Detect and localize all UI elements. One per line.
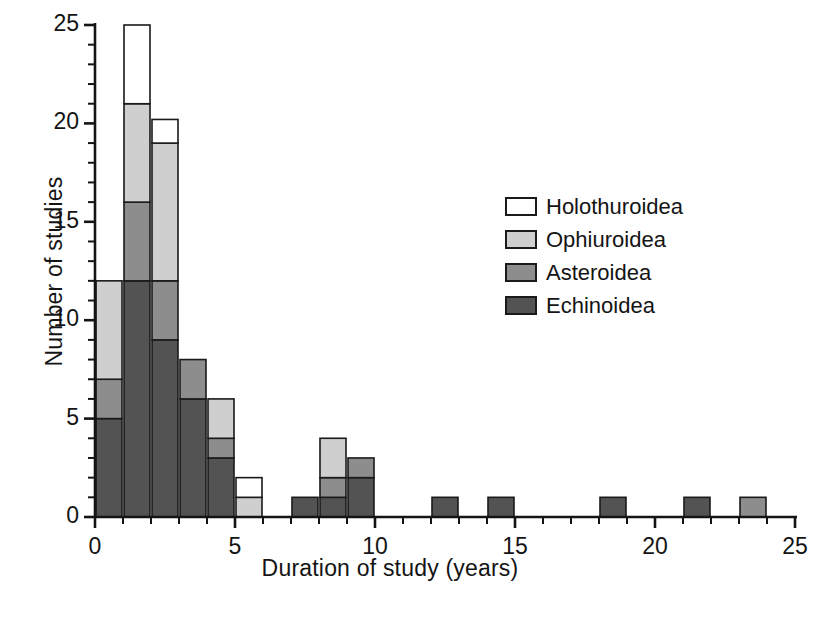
x-tick-label: 0 bbox=[65, 533, 125, 560]
legend-swatch-icon bbox=[505, 230, 537, 249]
legend-label: Ophiuroidea bbox=[546, 229, 666, 251]
bar-segment-echinoidea bbox=[152, 340, 178, 517]
y-axis-title: Number of studies bbox=[41, 122, 68, 422]
bar-segment-holothuroidea bbox=[124, 25, 150, 104]
bar-segment-ophiuroidea bbox=[236, 497, 262, 517]
y-tick-label: 0 bbox=[19, 502, 79, 529]
bar-segment-asteroidea bbox=[348, 458, 374, 478]
bar-segment-ophiuroidea bbox=[208, 399, 234, 438]
bar-segment-asteroidea bbox=[124, 202, 150, 281]
chart-legend: HolothuroideaOphiuroideaAsteroideaEchino… bbox=[505, 190, 805, 322]
legend-item: Holothuroidea bbox=[505, 190, 805, 223]
bar-segment-echinoidea bbox=[208, 458, 234, 517]
y-tick-label: 20 bbox=[19, 108, 79, 135]
bar-segment-asteroidea bbox=[180, 360, 206, 399]
legend-item: Asteroidea bbox=[505, 256, 805, 289]
bar-segment-asteroidea bbox=[96, 379, 122, 418]
legend-label: Holothuroidea bbox=[546, 196, 683, 218]
bar-segment-echinoidea bbox=[488, 497, 514, 517]
bar-segment-asteroidea bbox=[152, 281, 178, 340]
bar-segment-asteroidea bbox=[740, 497, 766, 517]
y-tick-label: 10 bbox=[19, 305, 79, 332]
bar-segment-echinoidea bbox=[600, 497, 626, 517]
x-tick-label: 5 bbox=[205, 533, 265, 560]
legend-item: Echinoidea bbox=[505, 289, 805, 322]
bar-segment-echinoidea bbox=[180, 399, 206, 517]
y-tick-label: 5 bbox=[19, 404, 79, 431]
bar-segment-asteroidea bbox=[208, 438, 234, 458]
bar-segment-ophiuroidea bbox=[124, 104, 150, 202]
legend-label: Asteroidea bbox=[546, 262, 651, 284]
x-tick-label: 25 bbox=[765, 533, 825, 560]
bar-segment-echinoidea bbox=[432, 497, 458, 517]
bar-segment-echinoidea bbox=[348, 478, 374, 517]
bar-segment-ophiuroidea bbox=[96, 281, 122, 379]
bar-segment-echinoidea bbox=[684, 497, 710, 517]
histogram-figure: Number of studies Duration of study (yea… bbox=[0, 0, 831, 625]
legend-swatch-icon bbox=[505, 197, 537, 216]
bar-segment-ophiuroidea bbox=[152, 143, 178, 281]
x-tick-label: 10 bbox=[345, 533, 405, 560]
bar-segment-ophiuroidea bbox=[320, 438, 346, 477]
bar-segment-echinoidea bbox=[124, 281, 150, 517]
legend-swatch-icon bbox=[505, 263, 537, 282]
legend-label: Echinoidea bbox=[546, 295, 655, 317]
bar-segment-echinoidea bbox=[96, 419, 122, 517]
legend-item: Ophiuroidea bbox=[505, 223, 805, 256]
y-tick-label: 25 bbox=[19, 10, 79, 37]
bar-segment-echinoidea bbox=[320, 497, 346, 517]
y-tick-label: 15 bbox=[19, 207, 79, 234]
legend-swatch-icon bbox=[505, 296, 537, 315]
bar-segment-echinoidea bbox=[292, 497, 318, 517]
bar-segment-holothuroidea bbox=[152, 119, 178, 143]
bar-segment-asteroidea bbox=[320, 478, 346, 498]
x-tick-label: 20 bbox=[625, 533, 685, 560]
x-tick-label: 15 bbox=[485, 533, 545, 560]
bar-segment-holothuroidea bbox=[236, 478, 262, 498]
